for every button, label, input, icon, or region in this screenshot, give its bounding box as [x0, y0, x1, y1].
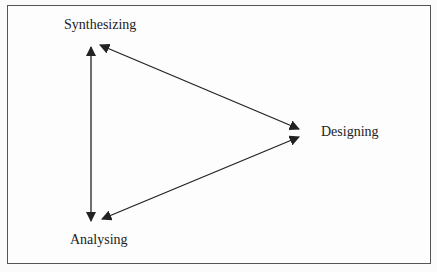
node-analysing: Analysing — [70, 232, 128, 248]
arrow-analysing-designing — [102, 137, 299, 219]
arrow-synthesizing-designing — [100, 45, 299, 129]
node-synthesizing: Synthesizing — [64, 17, 136, 33]
node-designing: Designing — [321, 124, 379, 140]
